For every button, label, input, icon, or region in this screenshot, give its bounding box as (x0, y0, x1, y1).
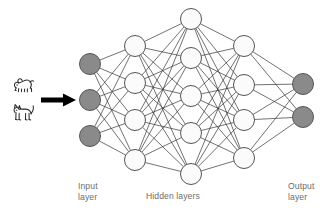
network-edge (145, 62, 182, 78)
network-node-input (80, 90, 101, 111)
network-edge (199, 92, 236, 126)
network-node-output (293, 74, 314, 95)
network-edge (145, 48, 180, 56)
network-edge (195, 56, 240, 165)
network-node-hidden3 (234, 110, 255, 131)
network-node-hidden2 (181, 123, 202, 144)
network-node-hidden1 (125, 150, 146, 171)
network-canvas (0, 0, 333, 213)
network-edge (143, 127, 184, 166)
network-edge (253, 52, 294, 79)
input-layer-label-line1: Input (78, 181, 98, 191)
output-layer-label-line1: Output (288, 181, 314, 191)
neural-network-diagram: Inputlayer Hidden layers Outputlayer (0, 0, 333, 213)
network-edge (144, 24, 181, 42)
dog-icon (14, 79, 33, 92)
network-node-hidden3 (234, 36, 255, 57)
network-edge (201, 137, 235, 153)
network-edge (140, 67, 186, 151)
network-node-hidden2 (181, 48, 202, 69)
network-edge (201, 48, 234, 55)
network-edge (200, 24, 234, 41)
network-edge (99, 141, 125, 155)
network-node-hidden3 (234, 75, 255, 96)
network-edge (145, 122, 181, 130)
output-layer-label-line2: layer (288, 192, 307, 202)
network-node-hidden2 (181, 86, 202, 107)
network-nodes (80, 9, 314, 185)
network-edge (142, 27, 184, 75)
network-edge (139, 29, 187, 150)
network-node-hidden3 (234, 148, 255, 169)
network-node-hidden1 (125, 110, 146, 131)
network-node-hidden1 (125, 36, 146, 57)
network-edge (196, 94, 238, 165)
network-node-input (80, 54, 101, 75)
network-edge (254, 118, 292, 120)
network-edge (201, 161, 234, 171)
network-edge (255, 84, 293, 85)
network-edge (144, 138, 181, 156)
network-edge (97, 91, 128, 128)
network-edge (142, 104, 184, 152)
output-layer-label: Outputlayer (288, 181, 314, 202)
network-edge (198, 127, 236, 166)
input-layer-label: Inputlayer (78, 181, 98, 202)
network-edge (196, 28, 239, 110)
network-node-input (80, 126, 101, 147)
network-node-output (293, 107, 314, 128)
network-node-hidden2 (181, 164, 202, 185)
cat-icon (14, 105, 33, 120)
network-edge (199, 53, 237, 89)
network-edge (100, 50, 126, 60)
input-layer-label-line2: layer (78, 192, 97, 202)
network-edge (253, 123, 295, 152)
right-arrow-icon (41, 94, 76, 107)
network-edge (139, 56, 187, 165)
network-edge (145, 163, 181, 172)
network-edge (196, 55, 238, 124)
network-edge (200, 63, 234, 80)
hidden-layers-label: Hidden layers (146, 191, 200, 202)
network-node-hidden1 (125, 73, 146, 94)
network-node-hidden2 (181, 9, 202, 30)
